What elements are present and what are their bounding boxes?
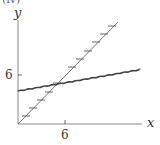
series-shallow-line [18, 69, 140, 91]
x-tick-label-6: 6 [61, 128, 69, 142]
x-axis-label: x [147, 115, 154, 130]
y-tick-label-6: 6 [5, 68, 13, 82]
chart-figure: (iv) y x [0, 0, 160, 145]
series-steep-line [18, 22, 118, 124]
chart-plot [0, 0, 160, 145]
y-axis-label: y [14, 5, 21, 20]
